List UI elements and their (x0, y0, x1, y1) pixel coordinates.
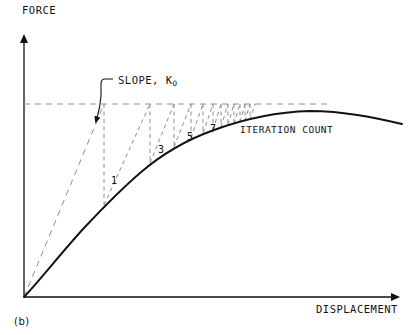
iteration-number-label: 7 (210, 123, 216, 134)
panel-caption: (b) (14, 316, 30, 327)
iteration-rise-1 (104, 104, 150, 205)
iteration-rise-8 (228, 104, 234, 125)
iteration-rise-10 (240, 104, 245, 122)
iteration-number-label: 3 (158, 144, 164, 155)
iteration-number-label: 1 (111, 175, 117, 186)
iteration-count-annotation: ITERATION COUNT (240, 124, 333, 135)
force-displacement-iteration-figure: FORCE DISPLACEMENT SLOPE, KO ITERATION C… (0, 0, 416, 335)
iteration-construction-group (104, 104, 255, 205)
initial-stiffness-tangent-line (24, 104, 104, 297)
plot-canvas (0, 0, 416, 335)
nonlinear-response-curve (24, 111, 402, 297)
slope-leader-line (97, 79, 113, 118)
iteration-number-label: 5 (187, 131, 193, 142)
x-axis-label: DISPLACEMENT (316, 303, 398, 315)
slope-annotation-text: SLOPE, K (118, 74, 173, 86)
slope-annotation-subscript: O (173, 79, 178, 88)
iteration-rise-7 (221, 104, 228, 127)
axis-lines (24, 42, 392, 297)
slope-annotation-label: SLOPE, KO (118, 74, 177, 88)
y-axis-label: FORCE (22, 4, 56, 16)
